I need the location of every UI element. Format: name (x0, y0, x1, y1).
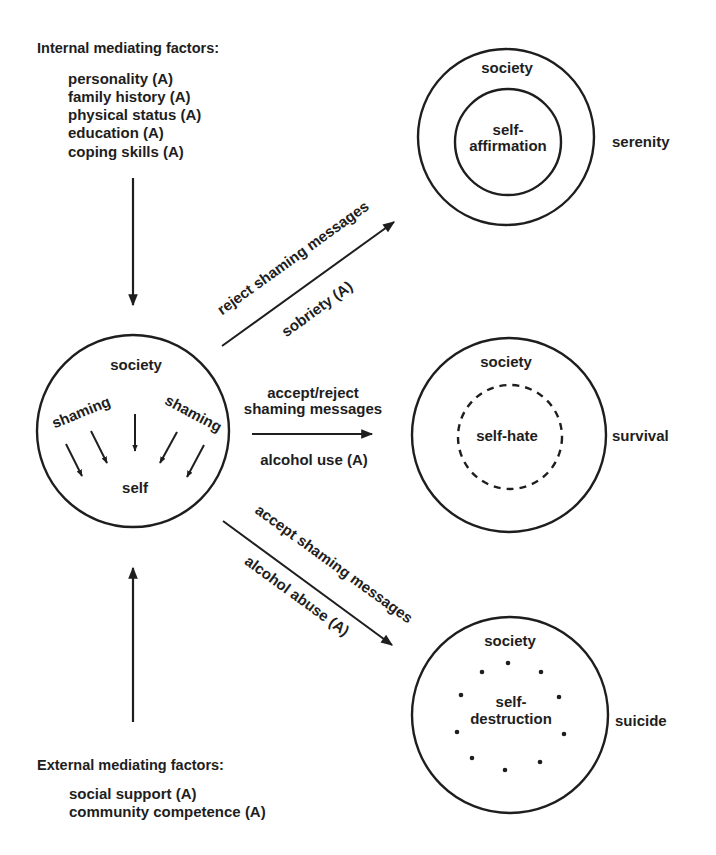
outcome-suicide: society self- destruction suicide (412, 617, 667, 813)
outcome-inner-label: affirmation (469, 137, 547, 154)
shaming-arrow-icon (160, 432, 177, 463)
outcome-serenity: society self- affirmation serenity (418, 49, 670, 225)
path-upper-label: accept shaming messages (252, 501, 416, 626)
shaming-arrow-icon (187, 445, 204, 477)
internal-factor-item: coping skills (A) (68, 143, 184, 160)
shaming-label-right: shaming (162, 391, 224, 435)
path-lower-label: alcohol use (A) (260, 451, 368, 468)
central-society-label: society (110, 356, 162, 373)
outcome-inner-label: self- (496, 693, 527, 710)
shaming-label-left: shaming (49, 392, 113, 431)
shaming-arrow-icon (91, 431, 107, 463)
internal-factor-item: personality (A) (68, 70, 173, 87)
outcome-result-label: suicide (615, 712, 667, 729)
path-accept: accept shaming messages alcohol abuse (A… (223, 501, 416, 645)
outcome-inner-label: destruction (470, 710, 552, 727)
external-factor-item: social support (A) (69, 785, 197, 802)
external-factors-block: External mediating factors: social suppo… (37, 757, 266, 820)
internal-factor-item: family history (A) (68, 88, 191, 105)
path-upper-label: accept/reject (267, 384, 359, 401)
outcome-inner-label: self-hate (476, 427, 538, 444)
outcome-society-label: society (484, 632, 536, 649)
self-label: self (122, 479, 149, 496)
internal-factor-item: education (A) (68, 124, 164, 141)
outcome-society-label: society (481, 59, 533, 76)
path-upper-label: shaming messages (244, 400, 382, 417)
outcome-result-label: survival (612, 427, 669, 444)
outcome-survival: society self-hate survival (412, 338, 669, 532)
outcome-result-label: serenity (612, 133, 670, 150)
external-factors-heading: External mediating factors: (37, 757, 224, 773)
internal-factors-block: Internal mediating factors: personality … (37, 40, 219, 160)
shaming-arrow-icon (66, 444, 82, 476)
external-factor-item: community competence (A) (69, 803, 266, 820)
central-circle: society shaming shaming self (37, 335, 229, 527)
outcome-inner-label: self- (493, 121, 524, 138)
internal-factors-heading: Internal mediating factors: (37, 40, 219, 56)
outcome-society-label: society (480, 353, 532, 370)
internal-factor-item: physical status (A) (68, 106, 201, 123)
path-upper-label: reject shaming messages (214, 197, 372, 318)
path-lower-label: sobriety (A) (278, 277, 356, 340)
path-accept-reject: accept/reject shaming messages alcohol u… (244, 384, 382, 468)
diagram-canvas: Internal mediating factors: personality … (0, 0, 716, 855)
path-reject: reject shaming messages sobriety (A) (214, 197, 394, 346)
